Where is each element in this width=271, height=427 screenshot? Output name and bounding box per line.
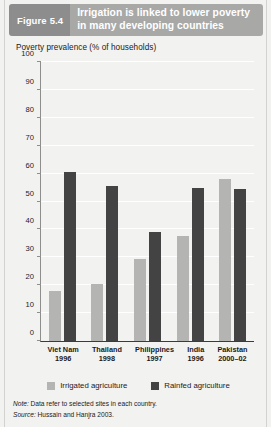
x-axis-label-year: 2000–02 bbox=[217, 355, 247, 364]
y-axis-label: 100 bbox=[21, 49, 34, 58]
x-axis-label: Pakistan2000–02 bbox=[217, 346, 247, 363]
x-axis-label: Philippines1997 bbox=[135, 346, 174, 363]
frame-right-border bbox=[266, 0, 267, 427]
bar bbox=[177, 236, 189, 341]
chart-area: 0102030405060708090100 Viet Nam1996Thail… bbox=[16, 58, 260, 358]
bar bbox=[49, 291, 61, 341]
chart-legend: Irrigated agricultureRainfed agriculture bbox=[16, 381, 261, 390]
bar bbox=[91, 284, 103, 341]
legend-swatch bbox=[47, 382, 55, 390]
legend-item: Rainfed agriculture bbox=[151, 381, 229, 390]
x-axis-label: Thailand1998 bbox=[92, 346, 122, 363]
legend-swatch bbox=[151, 382, 159, 390]
y-axis-label: 40 bbox=[26, 216, 34, 225]
y-axis-label: 60 bbox=[26, 160, 34, 169]
source-line: Source: Hussain and Hanjra 2003. bbox=[13, 409, 261, 420]
bar-group bbox=[219, 62, 246, 341]
x-axis-labels: Viet Nam1996Thailand1998Philippines1997I… bbox=[41, 346, 254, 363]
bar-group bbox=[177, 62, 204, 341]
x-axis-label-year: 1996 bbox=[48, 355, 79, 364]
figure-word: Figure bbox=[17, 15, 47, 26]
bar bbox=[64, 172, 76, 341]
y-axis-label: 20 bbox=[26, 272, 34, 281]
note-line: Note: Data refer to selected sites in ea… bbox=[13, 398, 261, 409]
bar-group bbox=[134, 62, 161, 341]
bar bbox=[106, 186, 118, 341]
bar bbox=[192, 188, 204, 341]
y-axis-label: 10 bbox=[26, 300, 34, 309]
plot-frame: 0102030405060708090100 bbox=[40, 62, 254, 342]
figure-number: 5.4 bbox=[50, 15, 64, 26]
figure-panel: Figure 5.4 Irrigation is linked to lower… bbox=[0, 0, 271, 427]
bar bbox=[149, 232, 161, 341]
x-axis-label-year: 1997 bbox=[135, 355, 174, 364]
x-axis-label-year: 1998 bbox=[92, 355, 122, 364]
y-axis-label: 70 bbox=[26, 132, 34, 141]
bar bbox=[134, 259, 146, 341]
note-label: Note: bbox=[13, 400, 29, 407]
y-axis-label: 30 bbox=[26, 244, 34, 253]
bar-group bbox=[49, 62, 76, 341]
x-axis-label: Viet Nam1996 bbox=[48, 346, 79, 363]
bar bbox=[234, 189, 246, 341]
figure-title: Irrigation is linked to lower poverty in… bbox=[70, 4, 263, 36]
legend-label: Irrigated agriculture bbox=[60, 381, 127, 390]
y-axis-label: 90 bbox=[26, 76, 34, 85]
bar-group bbox=[91, 62, 118, 341]
figure-number-tag: Figure 5.4 bbox=[9, 4, 70, 36]
y-axis-label: 50 bbox=[26, 188, 34, 197]
figure-header: Figure 5.4 Irrigation is linked to lower… bbox=[9, 4, 263, 36]
bar bbox=[219, 179, 231, 341]
y-axis-label: 0 bbox=[30, 328, 34, 337]
x-axis-label-year: 1996 bbox=[187, 355, 204, 364]
y-axis-title: Poverty prevalence (% of households) bbox=[16, 43, 156, 52]
frame-left-border bbox=[4, 0, 5, 427]
y-axis-label: 80 bbox=[26, 104, 34, 113]
x-axis-label: India1996 bbox=[187, 346, 204, 363]
legend-label: Rainfed agriculture bbox=[164, 381, 229, 390]
note-text: Data refer to selected sites in each cou… bbox=[29, 400, 157, 407]
legend-item: Irrigated agriculture bbox=[47, 381, 127, 390]
figure-footnotes: Note: Data refer to selected sites in ea… bbox=[13, 398, 261, 420]
source-text: Hussain and Hanjra 2003. bbox=[36, 411, 114, 418]
source-label: Source: bbox=[13, 411, 36, 418]
bar-groups bbox=[41, 62, 254, 341]
